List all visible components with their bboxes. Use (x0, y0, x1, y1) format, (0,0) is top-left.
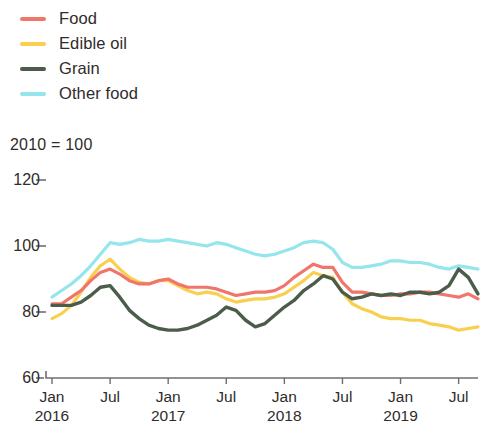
x-axis-tick-year: 2017 (128, 406, 208, 425)
series-line-other-food (52, 239, 478, 297)
chart-legend: Food Edible oil Grain Other food (20, 6, 280, 106)
plot-area (0, 160, 482, 400)
index-base-note: 2010 = 100 (10, 136, 93, 154)
line-swatch-icon-grain (20, 67, 46, 71)
line-swatch-icon-food (20, 17, 46, 21)
y-axis-tick-label: 100 (6, 237, 40, 255)
y-axis-tick-label: 60 (6, 369, 40, 387)
x-axis-tick-month: Jul (419, 387, 482, 406)
legend-item-grain: Grain (20, 56, 280, 81)
line-swatch-icon-edible-oil (20, 42, 46, 46)
legend-item-other-food: Other food (20, 81, 280, 106)
x-axis-tick-year: 2018 (244, 406, 324, 425)
legend-label-edible-oil: Edible oil (59, 35, 127, 52)
food-price-index-chart: Food Edible oil Grain Other food 2010 = … (0, 0, 482, 432)
y-axis-tick-label: 80 (6, 303, 40, 321)
x-axis-line (46, 371, 478, 378)
legend-label-food: Food (59, 10, 97, 27)
line-chart-svg (0, 160, 482, 400)
x-axis-tick-year: 2016 (12, 406, 92, 425)
y-axis-tick-label: 120 (6, 171, 40, 189)
legend-label-other-food: Other food (59, 85, 138, 102)
legend-item-food: Food (20, 6, 280, 31)
x-axis-tick-label: Jul (419, 387, 482, 406)
legend-item-edible-oil: Edible oil (20, 31, 280, 56)
x-axis-tick-year: 2019 (361, 406, 441, 425)
legend-label-grain: Grain (59, 60, 100, 77)
line-swatch-icon-other-food (20, 92, 46, 96)
